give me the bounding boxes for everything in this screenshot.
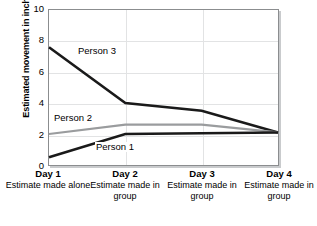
x-tick-label: Day 1 bbox=[5, 168, 91, 180]
x-tick-sublabel: Estimate made in group bbox=[236, 180, 317, 203]
series-annotation-person-1: Person 1 bbox=[95, 142, 135, 152]
x-tick-group-day-1: Day 1 Estimate made alone bbox=[5, 168, 91, 191]
x-tick-label: Day 4 bbox=[236, 168, 317, 180]
y-axis-tick-labels: 10 8 6 4 2 0 bbox=[22, 0, 44, 226]
y-tick-label: 4 bbox=[22, 98, 44, 108]
series-annotation-person-2: Person 2 bbox=[53, 113, 93, 123]
x-tick-label: Day 2 bbox=[82, 168, 168, 180]
y-tick-label: 2 bbox=[22, 130, 44, 140]
x-tick-sublabel: Estimate made in group bbox=[82, 180, 168, 203]
x-tick-group-day-3: Day 3 Estimate made in group bbox=[159, 168, 245, 203]
y-tick-label: 8 bbox=[22, 36, 44, 46]
x-tick-sublabel: Estimate made alone bbox=[5, 180, 91, 192]
x-axis-tick-labels: Day 1 Estimate made alone Day 2 Estimate… bbox=[48, 168, 279, 220]
series-annotation-person-3: Person 3 bbox=[77, 46, 117, 56]
x-tick-label: Day 3 bbox=[159, 168, 245, 180]
y-tick-label: 10 bbox=[22, 4, 44, 14]
plot-area: Person 3 Person 2 Person 1 bbox=[48, 9, 279, 166]
chart-figure: Estimated movement in inches 10 8 6 4 2 … bbox=[0, 0, 317, 226]
x-tick-group-day-4: Day 4 Estimate made in group bbox=[236, 168, 317, 203]
series-line-person-1 bbox=[49, 132, 278, 157]
x-tick-group-day-2: Day 2 Estimate made in group bbox=[82, 168, 168, 203]
y-tick-label: 6 bbox=[22, 67, 44, 77]
series-lines bbox=[49, 10, 278, 165]
x-tick-sublabel: Estimate made in group bbox=[159, 180, 245, 203]
